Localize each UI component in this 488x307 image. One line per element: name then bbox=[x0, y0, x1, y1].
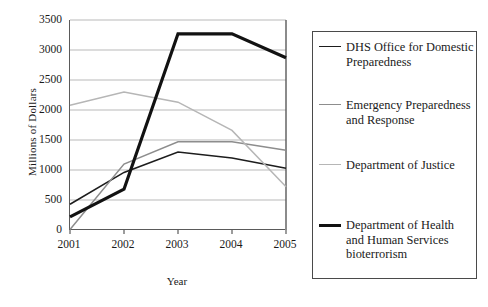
series-line-3 bbox=[70, 92, 286, 187]
x-tick-label: 2003 bbox=[151, 238, 203, 250]
x-tick-label: 2001 bbox=[43, 238, 95, 250]
legend-item: Department of Health and Human Services … bbox=[319, 218, 475, 262]
y-tick-label: 0 bbox=[20, 224, 62, 236]
y-tick-label: 2000 bbox=[20, 104, 62, 116]
line-series-canvas bbox=[70, 20, 286, 230]
series-line-1 bbox=[70, 152, 286, 204]
legend-item: Department of Justice bbox=[319, 158, 475, 173]
y-tick-label: 1000 bbox=[20, 164, 62, 176]
y-tick-label: 2500 bbox=[20, 74, 62, 86]
chart-figure: Millions of Dollars 35003000250020001500… bbox=[0, 0, 488, 307]
legend-item: DHS Office for Domestic Preparedness bbox=[319, 40, 475, 69]
legend-item-label: DHS Office for Domestic Preparedness bbox=[346, 40, 475, 69]
plot-area bbox=[69, 20, 285, 230]
legend-swatch-icon bbox=[319, 98, 341, 112]
legend-swatch-icon bbox=[319, 218, 341, 232]
y-tick-label: 500 bbox=[20, 194, 62, 206]
y-tick-label: 3000 bbox=[20, 44, 62, 56]
legend-swatch-icon bbox=[319, 40, 341, 54]
x-axis-title: Year bbox=[69, 275, 285, 287]
x-tick-label: 2005 bbox=[259, 238, 311, 250]
x-tick-label: 2002 bbox=[97, 238, 149, 250]
legend-item: Emergency Preparedness and Response bbox=[319, 98, 475, 127]
y-tick-label: 3500 bbox=[20, 14, 62, 26]
legend-item-label: Department of Health and Human Services … bbox=[346, 218, 475, 262]
legend-swatch-icon bbox=[319, 158, 341, 172]
legend-item-label: Department of Justice bbox=[346, 158, 455, 173]
y-tick-label: 1500 bbox=[20, 134, 62, 146]
chart-legend: DHS Office for Domestic PreparednessEmer… bbox=[312, 31, 477, 279]
legend-item-label: Emergency Preparedness and Response bbox=[346, 98, 475, 127]
x-tick-label: 2004 bbox=[205, 238, 257, 250]
